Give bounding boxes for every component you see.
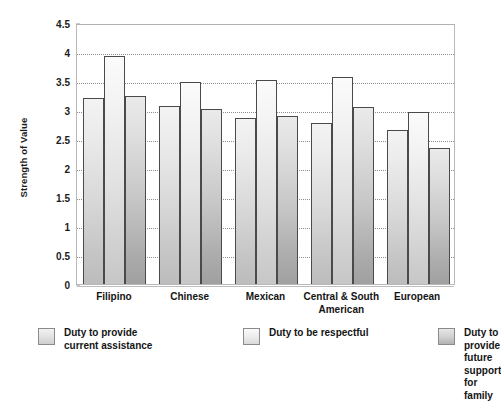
bar bbox=[256, 80, 277, 284]
legend-label: Duty to providecurrent assistance bbox=[64, 327, 152, 352]
bar bbox=[387, 130, 408, 284]
bar bbox=[311, 123, 332, 284]
y-axis-tick-label: 0.5 bbox=[6, 251, 70, 262]
legend-item[interactable]: Duty to be respectful bbox=[243, 327, 368, 345]
y-axis-tick-labels: 00.511.522.533.544.5 bbox=[0, 24, 70, 285]
bar bbox=[408, 112, 429, 284]
bar-group bbox=[153, 25, 229, 284]
y-axis-tick-label: 1 bbox=[6, 222, 70, 233]
legend-label: Duty to provide futuresupport for family bbox=[464, 327, 501, 402]
y-axis-tick-label: 2 bbox=[6, 164, 70, 175]
legend-label: Duty to be respectful bbox=[269, 327, 368, 340]
x-axis-category-labels: FilipinoChineseMexicanCentral & SouthAme… bbox=[76, 291, 455, 321]
legend-item[interactable]: Duty to provide futuresupport for family bbox=[438, 327, 501, 402]
bar bbox=[83, 98, 104, 284]
bar-group bbox=[380, 25, 456, 284]
legend-swatch bbox=[38, 328, 55, 345]
bar bbox=[104, 56, 125, 284]
legend-item[interactable]: Duty to providecurrent assistance bbox=[38, 327, 152, 352]
x-axis-category-label: European bbox=[369, 291, 465, 304]
bar bbox=[429, 148, 450, 284]
plot-area bbox=[76, 24, 455, 285]
y-axis-tick-label: 1.5 bbox=[6, 193, 70, 204]
bar-group bbox=[304, 25, 380, 284]
bar bbox=[332, 77, 353, 284]
gridline bbox=[77, 286, 454, 287]
bar bbox=[125, 96, 146, 285]
bar bbox=[277, 116, 298, 284]
bar bbox=[159, 106, 180, 284]
bar bbox=[180, 82, 201, 284]
chart-legend: Duty to providecurrent assistanceDuty to… bbox=[38, 327, 468, 367]
y-axis-tick-label: 4 bbox=[6, 48, 70, 59]
y-axis-tick-label: 4.5 bbox=[6, 19, 70, 30]
y-axis-tick-label: 0 bbox=[6, 280, 70, 291]
legend-swatch bbox=[438, 328, 455, 345]
y-axis-tick-label: 3 bbox=[6, 106, 70, 117]
y-axis-tick-label: 2.5 bbox=[6, 135, 70, 146]
bar bbox=[353, 107, 374, 284]
bar-series-layer bbox=[77, 25, 454, 284]
bar bbox=[235, 118, 256, 284]
bar-group bbox=[77, 25, 153, 284]
y-axis-tick-label: 3.5 bbox=[6, 77, 70, 88]
bar-group bbox=[229, 25, 305, 284]
bar bbox=[201, 109, 222, 284]
legend-swatch bbox=[243, 328, 260, 345]
